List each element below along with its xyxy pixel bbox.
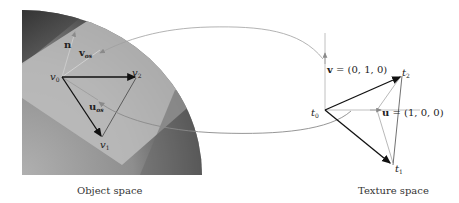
texture-space-vectors xyxy=(325,33,420,165)
label-t2: t2 xyxy=(402,67,410,79)
caption-object-space: Object space xyxy=(77,185,143,196)
label-t0: t0 xyxy=(311,107,319,119)
label-n: n xyxy=(64,39,72,50)
label-v-vector: v = (0, 1, 0) xyxy=(326,64,387,75)
edge-t0-t1 xyxy=(325,110,390,163)
texture-space-labels: v = (0, 1, 0) t2 t0 u = (1, 0, 0) t1 xyxy=(311,64,444,175)
label-t1: t1 xyxy=(395,163,403,175)
caption-texture-space: Texture space xyxy=(358,185,429,196)
tangent-space-diagram: n vos v0 v2 uos v1 xyxy=(0,0,459,203)
edge-t1-t2 xyxy=(393,76,402,165)
object-space-disk xyxy=(22,10,202,175)
label-u-vector: u = (1, 0, 0) xyxy=(382,107,444,118)
